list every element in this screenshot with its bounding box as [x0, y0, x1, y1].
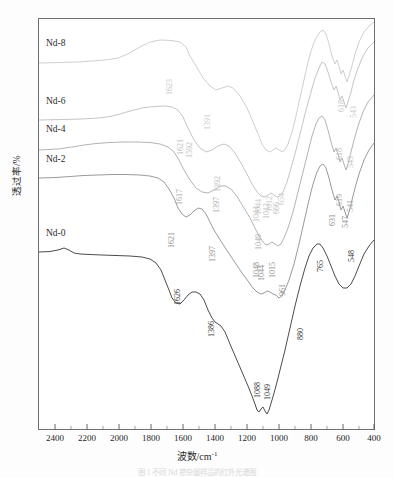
series-label-nd-2: Nd-2: [46, 154, 66, 164]
peak-label-nd-0-765: 765: [316, 260, 325, 272]
peak-label-nd-2-961: 961: [278, 284, 287, 296]
x-tick-1200: 1200: [238, 433, 256, 443]
x-tick-1600: 1600: [174, 433, 192, 443]
x-axis-label: 波数/cm-1: [0, 448, 394, 463]
x-tick-1000: 1000: [270, 433, 288, 443]
x-axis-label-exponent: -1: [212, 450, 218, 458]
peak-label-nd-6-1592: 1592: [185, 142, 194, 158]
peak-label-nd-0-1386: 1386: [207, 321, 216, 337]
x-tick-2000: 2000: [110, 433, 128, 443]
y-axis-label: 透过率/%: [9, 106, 23, 196]
peak-label-nd-6-1044: 1044: [252, 206, 261, 222]
peak-label-nd-2-631: 631: [328, 214, 337, 226]
peak-label-nd-4-1049: 1049: [254, 234, 263, 250]
x-tick-1800: 1800: [142, 433, 160, 443]
peak-label-nd-4-1617: 1617: [175, 189, 184, 205]
peak-label-nd-0-1049: 1049: [263, 384, 272, 400]
x-tick-2400: 2400: [46, 433, 64, 443]
x-axis-label-text: 波数/cm: [177, 451, 212, 462]
series-label-nd-8: Nd-8: [46, 38, 66, 48]
peak-label-nd-8-1623: 1623: [165, 79, 174, 95]
peak-label-nd-2-1015: 1015: [268, 262, 277, 278]
peak-label-nd-2-1621: 1621: [167, 232, 176, 248]
peak-label-nd-4-619: 619: [335, 194, 344, 206]
peak-label-nd-0-880: 880: [296, 328, 305, 340]
peak-label-nd-6-543: 543: [346, 156, 355, 168]
peak-label-nd-6-666: 666: [272, 202, 281, 214]
peak-label-nd-6-1621: 1621: [176, 139, 185, 155]
peak-label-nd-2-1044: 1044: [257, 265, 266, 281]
series-label-nd-6: Nd-6: [46, 96, 66, 106]
series-label-nd-4: Nd-4: [46, 124, 66, 134]
x-tick-800: 800: [304, 433, 318, 443]
peak-label-nd-4-1397: 1397: [212, 197, 221, 213]
series-label-nd-0: Nd-0: [46, 228, 66, 238]
x-tick-600: 600: [336, 433, 350, 443]
peak-label-nd-8-1391: 1391: [203, 114, 212, 130]
peak-label-nd-4-541: 541: [346, 200, 355, 212]
plot-frame: [39, 19, 375, 430]
x-tick-400: 400: [367, 433, 381, 443]
peak-label-nd-6-1392: 1392: [213, 176, 222, 192]
figure-caption: 图 1 不同 Nd 掺杂量样品的红外光谱图: [0, 466, 394, 477]
spectra-plot: [0, 0, 394, 477]
peak-label-nd-6-618: 618: [335, 148, 344, 160]
peak-label-nd-0-1088: 1088: [253, 382, 262, 398]
ftir-figure: 透过率/% 2400 2200 2000 1800 1600 1400 1200…: [0, 0, 394, 477]
peak-label-nd-0-548: 548: [347, 250, 356, 262]
peak-label-nd-2-547: 547: [341, 216, 350, 228]
peak-label-nd-2-1397: 1397: [208, 246, 217, 262]
x-tick-2200: 2200: [78, 433, 96, 443]
x-tick-1400: 1400: [206, 433, 224, 443]
peak-label-nd-0-1626: 1626: [173, 289, 182, 305]
peak-label-nd-6-1012: 1012: [262, 203, 271, 219]
peak-label-nd-8-543: 543: [349, 106, 358, 118]
peak-label-nd-8-618: 618: [337, 100, 346, 112]
